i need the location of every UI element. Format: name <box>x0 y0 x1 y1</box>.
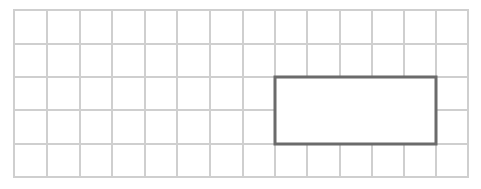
grid-paper <box>0 0 481 189</box>
grid-diagram <box>0 0 481 189</box>
highlight-rectangle <box>275 77 436 144</box>
